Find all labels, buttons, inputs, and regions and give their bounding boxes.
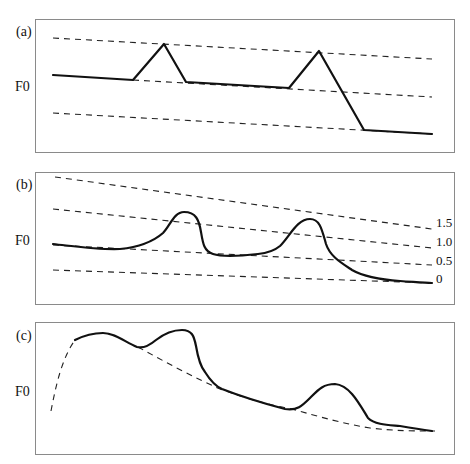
- phrase-component-decline: [138, 347, 435, 431]
- f0-contour: [75, 330, 432, 431]
- panel-c-plot: [0, 0, 470, 464]
- phrase-component-rise: [51, 340, 75, 411]
- panel-c: (c) F0: [0, 0, 470, 464]
